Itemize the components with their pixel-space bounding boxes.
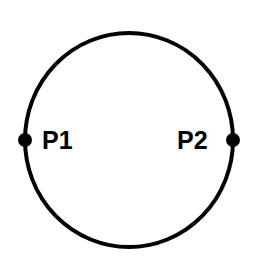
point-p1-label: P1 [42, 126, 73, 154]
circle-diagram: P1 P2 [0, 0, 258, 267]
point-p1-dot [18, 133, 32, 147]
point-p2-dot [226, 133, 240, 147]
point-p2-label: P2 [177, 126, 208, 154]
